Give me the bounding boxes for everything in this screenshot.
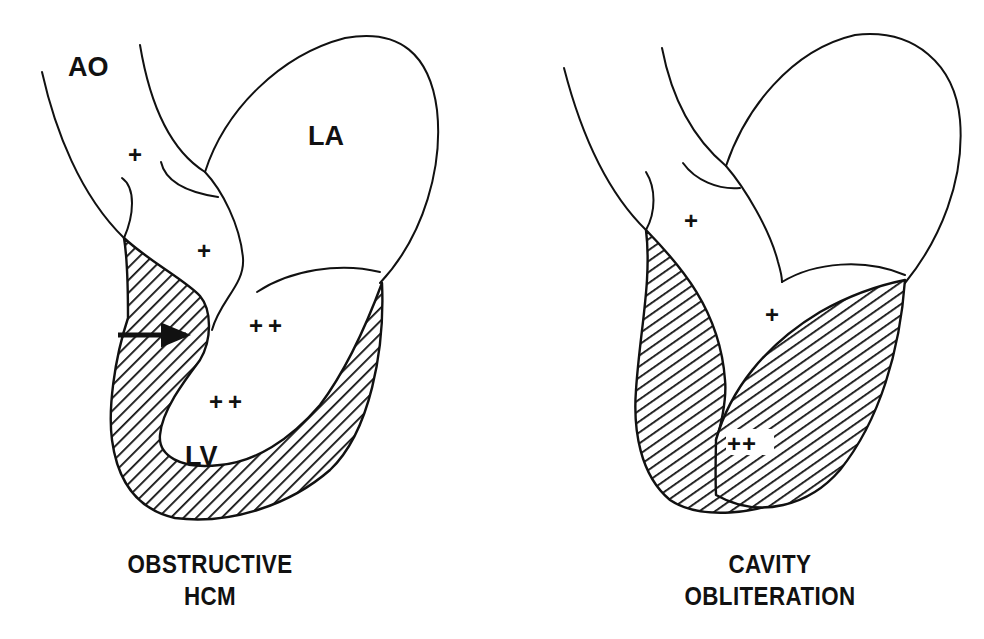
pressure-marker-aorta: + [128,141,142,168]
mitral-leaflet-2 [782,264,905,282]
aorta-right-wall-2 [662,48,782,282]
caption-cavity-obliteration: CAVITY OBLITERATION [658,548,882,612]
caption-line-2: OBLITERATION [658,580,882,612]
label-left-ventricle: LV [185,441,218,471]
panel-cavity-obliteration: + + ++ [564,34,961,513]
caption-obstructive-hcm: OBSTRUCTIVE HCM [98,548,322,612]
left-atrium-outline-2 [726,34,961,283]
label-left-atrium: LA [308,121,344,151]
pressure-marker-lv-lower: ++ [209,388,247,415]
panel-obstructive-hcm: AO LA LV + + ++ ++ [42,36,438,519]
label-aorta: AO [68,52,109,82]
pressure-marker-lv-mid: + [765,301,779,328]
left-atrium-outline [205,36,438,283]
pressure-marker-apex: ++ [727,430,757,457]
aortic-valve-cusp-left-2 [646,172,654,230]
heart-diagram: AO LA LV + + ++ ++ + + ++ [0,0,984,639]
aortic-valve-cusp-right [161,162,218,197]
pressure-marker-outflow: + [197,237,211,264]
aorta-left-wall [42,72,124,238]
pressure-marker-outflow-2: + [684,207,698,234]
caption-line-2: HCM [98,580,322,612]
aortic-valve-cusp-right-2 [683,163,740,188]
aortic-valve-cusp-left [122,178,132,238]
aorta-left-wall-2 [564,68,646,230]
caption-line-1: OBSTRUCTIVE [98,548,322,580]
lv-myocardium-wall [111,238,383,519]
posterior-wall-hatched [716,280,905,507]
caption-line-1: CAVITY [658,548,882,580]
pressure-marker-lv-upper: ++ [249,312,287,339]
mitral-leaflet [257,268,380,292]
